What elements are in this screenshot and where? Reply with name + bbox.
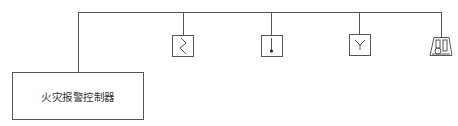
heat-detector bbox=[173, 12, 194, 57]
y-symbol-icon bbox=[355, 40, 365, 50]
alarm-sounder bbox=[430, 12, 452, 56]
fire-alarm-system-diagram: 火灾报警控制器 bbox=[0, 0, 458, 126]
controller-label: 火灾报警控制器 bbox=[12, 72, 144, 120]
flame-detector bbox=[350, 12, 371, 56]
smoke-detector bbox=[262, 12, 283, 57]
line-dot-icon bbox=[270, 38, 273, 53]
zigzag-icon bbox=[180, 38, 186, 54]
trapezoid-sounder-icon bbox=[430, 38, 452, 56]
